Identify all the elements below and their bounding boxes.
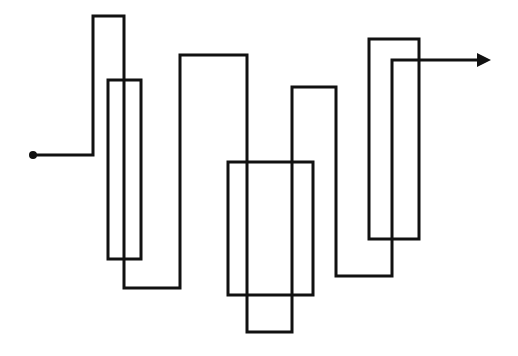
start-dot-icon — [29, 151, 37, 159]
diagram-canvas — [0, 0, 518, 356]
meandering-path — [33, 16, 480, 332]
line-diagram — [0, 0, 518, 356]
overlay-rectangles — [108, 39, 419, 295]
arrow-head-icon — [477, 53, 491, 67]
overlay-rect-3 — [369, 39, 419, 239]
overlay-rect-2 — [228, 162, 313, 295]
